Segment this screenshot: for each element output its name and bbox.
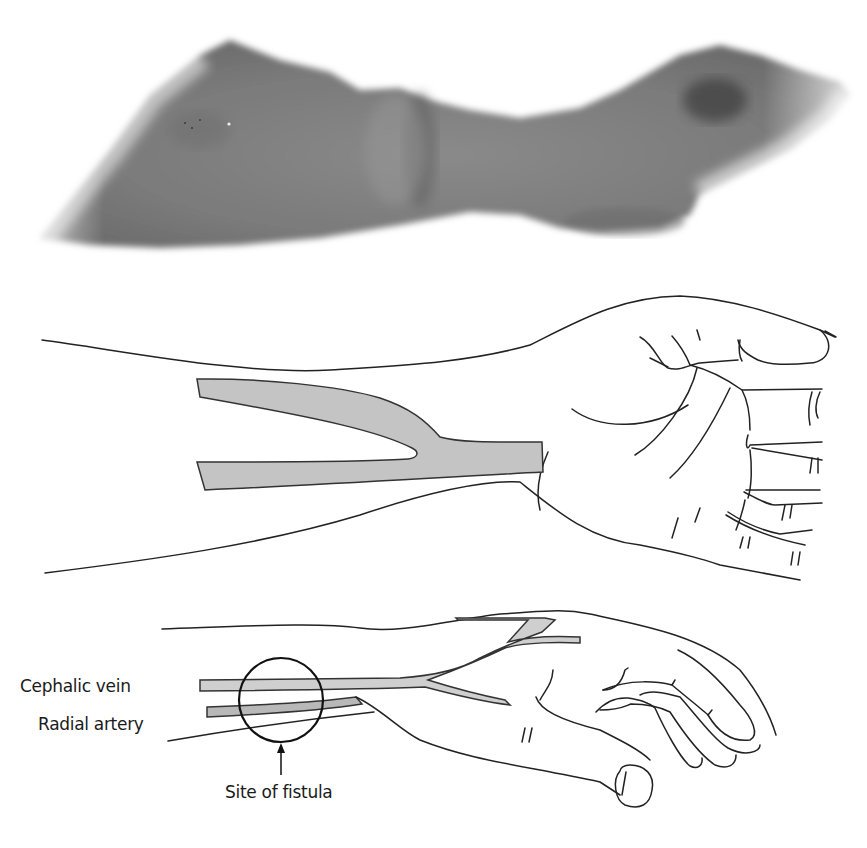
forearm-hand-drawing [0, 280, 867, 590]
side-view-drawing: Cephalic vein Radial artery Site of fist… [0, 590, 867, 848]
label-site-of-fistula: Site of fistula [225, 782, 332, 802]
label-cephalic-vein: Cephalic vein [20, 676, 131, 696]
forearm-photo [0, 0, 867, 260]
anastomosis-vessel [197, 379, 543, 490]
forearm-photo-image [0, 0, 867, 260]
label-radial-artery: Radial artery [38, 714, 144, 734]
forearm-outline-bottom [45, 482, 800, 580]
arrow-head-icon [277, 743, 285, 753]
vessel-anastomosis-diagram [0, 280, 867, 590]
fistula-site-diagram: Cephalic vein Radial artery Site of fist… [0, 590, 867, 848]
fistula-site-circle [239, 658, 323, 742]
forearm-outline-top [42, 296, 835, 371]
